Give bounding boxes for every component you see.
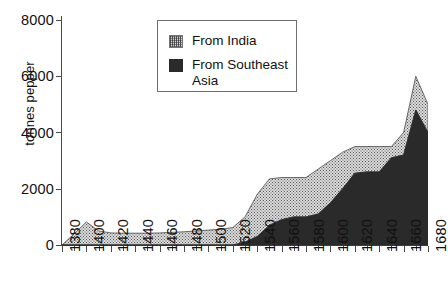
y-tick-label-8000: 8000 <box>8 13 54 28</box>
legend-label-from-southeast-asia: From Southeast Asia <box>192 57 296 88</box>
legend-item-from-india: From India <box>169 33 257 49</box>
x-tick-label-1420: 1420 <box>116 219 131 252</box>
legend-label-from-india: From India <box>192 33 257 49</box>
x-tick-mark-major <box>330 246 331 252</box>
y-tick-label-6000: 6000 <box>8 69 54 84</box>
y-axis-ticklabels: 8000 6000 4000 2000 0 <box>0 0 54 298</box>
x-tick-label-1540: 1540 <box>263 219 278 252</box>
x-tick-mark-major <box>62 246 63 252</box>
x-tick-mark-major <box>379 246 380 252</box>
x-tick-label-1440: 1440 <box>141 219 156 252</box>
x-tick-mark-major <box>282 246 283 252</box>
x-tick-mark-major <box>306 246 307 252</box>
x-tick-label-1560: 1560 <box>287 219 302 252</box>
x-tick-label-1500: 1500 <box>214 219 229 252</box>
legend-swatch-southeast-asia-icon <box>169 59 183 72</box>
x-tick-label-1580: 1580 <box>312 219 327 252</box>
x-tick-label-1600: 1600 <box>336 219 351 252</box>
x-tick-label-1380: 1380 <box>68 219 83 252</box>
x-tick-label-1460: 1460 <box>165 219 180 252</box>
chart-legend: From India From Southeast Asia <box>157 20 297 92</box>
x-tick-mark-major <box>428 246 429 252</box>
x-tick-label-1520: 1520 <box>238 219 253 252</box>
x-tick-mark-major <box>111 246 112 252</box>
x-tick-label-1640: 1640 <box>385 219 400 252</box>
legend-item-from-southeast-asia: From Southeast Asia <box>169 57 296 88</box>
x-tick-mark-major <box>208 246 209 252</box>
x-tick-label-1620: 1620 <box>360 219 375 252</box>
x-tick-mark-major <box>135 246 136 252</box>
x-tick-label-1480: 1480 <box>190 219 205 252</box>
y-tick-label-0: 0 <box>8 238 54 253</box>
legend-swatch-india-icon <box>169 35 183 48</box>
x-tick-mark-major <box>257 246 258 252</box>
x-tick-mark-major <box>404 246 405 252</box>
x-tick-mark-major <box>233 246 234 252</box>
y-tick-label-2000: 2000 <box>8 182 54 197</box>
x-tick-mark-major <box>355 246 356 252</box>
x-tick-mark-major <box>160 246 161 252</box>
x-tick-mark-major <box>86 246 87 252</box>
y-tick-label-4000: 4000 <box>8 126 54 141</box>
x-tick-label-1680: 1680 <box>434 219 448 252</box>
x-tick-label-1660: 1660 <box>409 219 424 252</box>
chart-figure: tonnes pepper 8000 6000 4000 2000 0 <box>0 0 448 298</box>
x-tick-label-1400: 1400 <box>92 219 107 252</box>
x-tick-mark-major <box>184 246 185 252</box>
